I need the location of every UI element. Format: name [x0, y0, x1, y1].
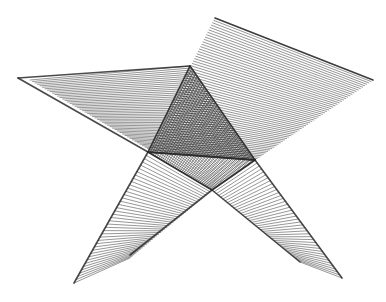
star-shaped-ruled-surface-drawing	[0, 0, 386, 302]
hatch-line	[130, 185, 192, 207]
ruled-surface-figure	[0, 0, 386, 302]
hatch-line	[105, 227, 164, 229]
edge-line	[212, 190, 300, 262]
hatch-line	[76, 256, 132, 279]
hatch-line	[213, 23, 369, 83]
hatch-line	[117, 208, 178, 219]
hatch-line	[265, 231, 307, 233]
hatch-line	[102, 233, 161, 234]
hatch-line	[271, 239, 313, 240]
hatch-line	[267, 234, 309, 235]
hatch-line	[74, 258, 130, 283]
hatch-line	[80, 253, 137, 273]
hatch-line	[245, 204, 288, 217]
hatch-line	[221, 172, 264, 197]
hatch-line	[210, 28, 364, 86]
hatch-line	[211, 25, 366, 84]
